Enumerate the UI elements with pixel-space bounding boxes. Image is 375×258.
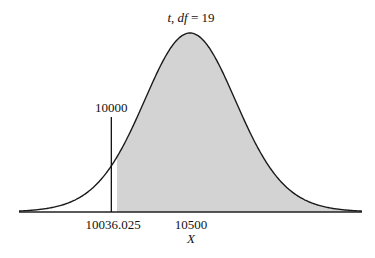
tick-label-mean: 10500 bbox=[175, 217, 208, 232]
x-axis-label: X bbox=[186, 231, 196, 246]
title-df-value: 19 bbox=[202, 10, 215, 25]
t-distribution-chart: t, df = 19 10000 10036.025 10500 X bbox=[0, 0, 375, 258]
shaded-area bbox=[117, 33, 362, 212]
reference-line-label: 10000 bbox=[95, 100, 128, 115]
chart-title: t, df = 19 bbox=[167, 10, 214, 25]
tick-label-critical: 10036.025 bbox=[85, 217, 140, 232]
title-eq: = bbox=[188, 10, 202, 25]
